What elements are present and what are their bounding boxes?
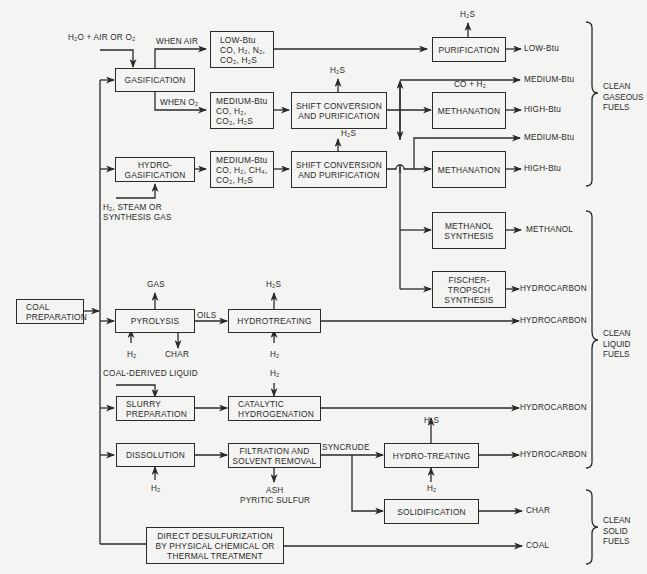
low-btu-gas-box: LOW-Btu CO, H₂, N₂, CO₂, H₂S [210, 31, 274, 68]
h2s-purification-label: H₂S [460, 10, 475, 20]
slurry-preparation-box: SLURRY PREPARATION [116, 396, 195, 421]
char-pyrolysis-label: CHAR [165, 350, 189, 360]
h2-catalytic-label: H₂ [270, 369, 280, 379]
shift-conversion-box-1: SHIFT CONVERSION AND PURIFICATION [291, 92, 387, 129]
methanation-box-1: METHANATION [432, 92, 506, 129]
when-air-label: WHEN AIR [156, 37, 198, 47]
fischer-tropsch-box: FISCHER- TROPSCH SYNTHESIS [432, 271, 506, 308]
product-high-btu-2: HIGH-Btu [524, 164, 561, 174]
gasification-box: GASIFICATION [115, 68, 195, 92]
purification-box: PURIFICATION [432, 37, 506, 62]
product-medium-btu-1: MEDIUM-Btu [524, 75, 574, 85]
syncrude-label: SYNCRUDE [322, 443, 370, 453]
clean-liquid-fuels-label: CLEAN LIQUID FUELS [603, 329, 630, 361]
h2s-shift-2-label: H₂S [341, 129, 356, 139]
gasification-feed-label: H₂O + AIR OR O₂ [68, 33, 135, 43]
hydrotreating-box: HYDROTREATING [228, 309, 321, 333]
methanation-box-2: METHANATION [432, 151, 506, 188]
medium-btu-gas-box-1: MEDIUM-Btu CO, H₂, CO₂, H₂S [210, 92, 274, 129]
solidification-box: SOLIDIFICATION [384, 499, 479, 524]
oils-label: OILS [197, 311, 216, 321]
product-high-btu-1: HIGH-Btu [524, 105, 561, 115]
clean-gaseous-fuels-label: CLEAN GASEOUS FUELS [603, 82, 644, 114]
medium-btu-gas-box-2: MEDIUM-Btu CO, H₂, CH₄, CO₂, H₂S [210, 151, 274, 188]
filtration-box: FILTRATION AND SOLVENT REMOVAL [228, 443, 321, 468]
catalytic-hydrogenation-box: CATALYTIC HYDROGENATION [228, 396, 321, 421]
pyrolysis-box: PYROLYSIS [115, 309, 195, 333]
gas-label: GAS [147, 280, 165, 290]
pyritic-sulfur-label: PYRITIC SULFUR [240, 496, 310, 506]
when-o2-label: WHEN O₂ [160, 98, 198, 108]
product-methanol: METHANOL [526, 225, 573, 235]
ash-label: ASH [266, 486, 283, 496]
hydrogasification-box: HYDRO- GASIFICATION [115, 157, 195, 182]
methanol-synthesis-box: METHANOL SYNTHESIS [432, 212, 506, 249]
co-h2-label: CO + H₂ [454, 80, 486, 90]
h2-hydrotreating-label: H₂ [270, 350, 280, 360]
product-hydrocarbon-syncrude: HYDROCARBON [520, 450, 587, 460]
clean-solid-fuels-label: CLEAN SOLID FUELS [603, 516, 630, 548]
product-low-btu: LOW-Btu [524, 44, 559, 54]
product-hydrocarbon-pyrolysis: HYDROCARBON [520, 316, 587, 326]
h2s-shift-1-label: H₂S [330, 66, 345, 76]
hydrogasification-feed-label-2: SYNTHESIS GAS [103, 213, 172, 223]
h2s-hydrotreating-label: H₂S [266, 280, 281, 290]
coal-conversion-flow-diagram: COAL PREPARATION H₂O + AIR OR O₂ GASIFIC… [0, 0, 647, 574]
product-char: CHAR [526, 506, 550, 516]
h2-dissolution-label: H₂ [151, 484, 161, 494]
product-hydrocarbon-catalytic: HYDROCARBON [520, 403, 587, 413]
product-coal: COAL [526, 541, 549, 551]
h2-hydro-treating-2-label: H₂ [427, 484, 437, 494]
coal-derived-liquid-label: COAL-DERIVED LIQUID [103, 369, 198, 379]
hydro-treating-box-2: HYDRO-TREATING [384, 443, 479, 468]
direct-desulfurization-box: DIRECT DESULFURIZATION BY PHYSICAL CHEMI… [146, 527, 284, 564]
product-hydrocarbon-ft: HYDROCARBON [520, 284, 587, 294]
dissolution-box: DISSOLUTION [116, 443, 195, 467]
coal-preparation-box: COAL PREPARATION [16, 299, 84, 324]
h2-pyrolysis-label: H₂ [127, 350, 137, 360]
shift-conversion-box-2: SHIFT CONVERSION AND PURIFICATION [291, 151, 387, 188]
h2s-hydro-treating-2-label: H₂S [424, 416, 439, 426]
hydrogasification-feed-label-1: H₂, STEAM OR [103, 203, 162, 213]
product-medium-btu-2: MEDIUM-Btu [524, 133, 574, 143]
